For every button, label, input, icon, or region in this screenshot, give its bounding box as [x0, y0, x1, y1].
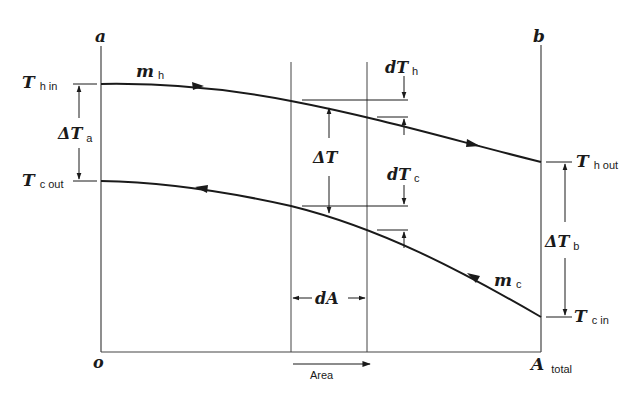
label-mc: m c	[494, 270, 522, 290]
heat-exchanger-diagram: a b o A total Area T h in T c out ΔT a m…	[0, 0, 639, 397]
label-th-out: T h out	[576, 151, 618, 171]
label-tc-out: T c out	[22, 170, 64, 190]
label-delta-t: ΔT	[312, 148, 338, 167]
label-delta-tb: ΔT b	[544, 232, 579, 252]
label-origin: o	[93, 353, 104, 372]
area-axis-label: Area	[310, 369, 334, 381]
label-b: b	[533, 26, 545, 46]
label-tc-in: T c in	[574, 306, 609, 326]
hot-flow-arrow-icon	[466, 139, 480, 147]
label-mh: m h	[136, 61, 164, 81]
label-dTh: dT h	[385, 58, 418, 77]
label-delta-ta: ΔT a	[57, 124, 93, 144]
label-a-total: A total	[529, 354, 572, 375]
label-dA: dA	[315, 289, 339, 308]
label-th-in: T h in	[22, 72, 57, 92]
label-a: a	[95, 26, 106, 46]
label-dTc: dT c	[387, 165, 420, 184]
